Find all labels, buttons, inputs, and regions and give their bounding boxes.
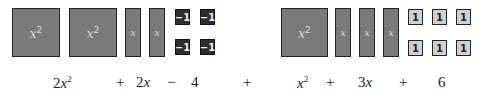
tile-label: x <box>130 27 136 38</box>
tile-label: x <box>298 27 305 41</box>
positive-unit-tile: 1 <box>456 9 471 25</box>
tile-label: 1 <box>412 12 419 23</box>
tile-label: 1 <box>436 43 443 54</box>
term-x-squared: x2 <box>297 74 308 92</box>
x-tile: x <box>125 8 141 57</box>
coefficient: 3 <box>358 74 366 90</box>
positive-unit-tile: 1 <box>456 40 471 56</box>
tile-label: −1 <box>200 12 215 23</box>
positive-unit-tile: 1 <box>408 9 423 25</box>
tile-label: −1 <box>200 42 215 53</box>
operator-plus: + <box>326 74 334 91</box>
tile-label: −1 <box>175 12 190 23</box>
tile-label: x <box>154 27 160 38</box>
tile-label: 1 <box>460 12 467 23</box>
tile-exponent: 2 <box>305 25 311 35</box>
variable: x <box>297 75 304 91</box>
x-squared-tile: x2 <box>281 8 328 57</box>
tile-label: x <box>87 27 94 41</box>
x-tile: x <box>335 8 351 57</box>
tile-exponent: 2 <box>37 25 43 35</box>
x-tile: x <box>149 8 165 57</box>
positive-unit-tile: 1 <box>408 40 423 56</box>
positive-unit-tile: 1 <box>432 40 447 56</box>
operator-minus: − <box>167 74 175 91</box>
x-tile: x <box>359 8 375 57</box>
tile-exponent: 2 <box>94 25 100 35</box>
variable: x <box>144 74 151 90</box>
term-3x: 3x <box>358 74 372 91</box>
exponent: 2 <box>67 74 72 84</box>
negative-unit-tile: −1 <box>175 39 190 55</box>
variable: x <box>366 74 373 90</box>
term-2x: 2x <box>136 74 150 91</box>
tile-label: x <box>340 27 346 38</box>
tile-label: x <box>388 27 394 38</box>
operator-plus: + <box>399 74 407 91</box>
coefficient: 2 <box>136 74 144 90</box>
negative-unit-tile: −1 <box>175 9 190 25</box>
negative-unit-tile: −1 <box>200 39 215 55</box>
tile-label: 1 <box>460 43 467 54</box>
positive-unit-tile: 1 <box>432 9 447 25</box>
tile-label: 1 <box>412 43 419 54</box>
x-squared-tile: x2 <box>12 8 60 57</box>
tile-label: x <box>30 27 37 41</box>
operator-plus: + <box>116 74 124 91</box>
operator-plus-middle: + <box>243 74 251 91</box>
tile-label: x <box>364 27 370 38</box>
exponent: 2 <box>304 74 309 84</box>
tile-label: −1 <box>175 42 190 53</box>
term-2x-squared: 2x2 <box>53 74 72 92</box>
term-constant-4: 4 <box>191 74 199 91</box>
negative-unit-tile: −1 <box>200 9 215 25</box>
coefficient: 2 <box>53 75 61 91</box>
term-constant-6: 6 <box>438 74 446 91</box>
x-tile: x <box>383 8 399 57</box>
x-squared-tile: x2 <box>69 8 117 57</box>
tile-label: 1 <box>436 12 443 23</box>
